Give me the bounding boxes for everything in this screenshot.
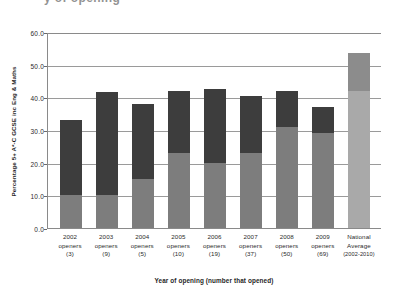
bar-slot: [161, 33, 197, 228]
bar-segment-lower: [168, 153, 190, 228]
bar-slot: [197, 33, 233, 228]
y-axis-tick-label: 0.0: [0, 226, 44, 233]
bar-segment-lower: [60, 195, 82, 228]
y-axis-tick-mark: [44, 33, 47, 34]
x-axis-label: 2002openers(3): [52, 233, 88, 259]
bar-segment-lower: [240, 153, 262, 228]
x-axis-label: NationalAverage(2002-2010): [341, 233, 377, 259]
bar-2008[interactable]: [276, 91, 298, 228]
chart-container: y of opening Percentage 5+ A*-C GCSE inc…: [0, 0, 396, 298]
bar-segment-upper: [60, 120, 82, 195]
y-axis-tick-label: 50.0: [0, 62, 44, 69]
x-axis-label-line: 2009: [305, 233, 341, 242]
bar-national-average[interactable]: [348, 53, 370, 228]
x-axis-label: 2009openers(69): [305, 233, 341, 259]
x-axis-label-line: (10): [160, 250, 196, 259]
bar-segment-upper: [312, 107, 334, 133]
bar-2006[interactable]: [204, 89, 226, 228]
bar-2003[interactable]: [96, 92, 118, 228]
clipped-chart-title: y of opening: [44, 0, 120, 5]
x-axis-label-line: openers: [52, 242, 88, 251]
x-axis-label-line: (2002-2010): [341, 250, 377, 259]
x-axis-label-line: National: [341, 233, 377, 242]
bar-2002[interactable]: [60, 120, 82, 228]
bar-segment-upper: [348, 53, 370, 91]
bar-2004[interactable]: [132, 104, 154, 228]
x-axis-label-line: (69): [305, 250, 341, 259]
x-axis-label: 2004openers(5): [124, 233, 160, 259]
y-axis-tick-mark: [44, 98, 47, 99]
y-axis-tick-label: 30.0: [0, 128, 44, 135]
x-axis-label: 2006openers(19): [196, 233, 232, 259]
x-axis-label: 2005openers(10): [160, 233, 196, 259]
bar-2009[interactable]: [312, 107, 334, 228]
x-axis-label-line: openers: [233, 242, 269, 251]
y-axis-tick-mark: [44, 164, 47, 165]
bar-slot: [53, 33, 89, 228]
bar-segment-lower: [132, 179, 154, 228]
x-axis-label-line: openers: [124, 242, 160, 251]
x-axis-label-line: openers: [196, 242, 232, 251]
bar-segment-upper: [168, 91, 190, 153]
bar-segment-lower: [312, 133, 334, 228]
y-axis-tick-label: 60.0: [0, 30, 44, 37]
x-axis-label-line: openers: [269, 242, 305, 251]
y-axis-tick-mark: [44, 196, 47, 197]
bar-2005[interactable]: [168, 91, 190, 228]
x-axis-label: 2007openers(37): [233, 233, 269, 259]
x-axis-label-line: openers: [305, 242, 341, 251]
bar-segment-lower: [204, 163, 226, 228]
y-axis-tick-label: 20.0: [0, 160, 44, 167]
x-axis-label-line: (19): [196, 250, 232, 259]
plot-area: [47, 33, 381, 229]
bar-slot: [233, 33, 269, 228]
x-axis-label-line: Average: [341, 242, 377, 251]
x-axis-label-line: openers: [88, 242, 124, 251]
x-axis-label-line: (50): [269, 250, 305, 259]
x-axis-title: Year of opening (number that opened): [47, 277, 381, 284]
bar-segment-upper: [204, 89, 226, 163]
bar-segment-lower: [276, 127, 298, 228]
bar-segment-lower: [96, 195, 118, 228]
bar-segment-upper: [96, 92, 118, 195]
bar-2007[interactable]: [240, 96, 262, 228]
x-axis-label-line: (37): [233, 250, 269, 259]
y-axis-tick-mark: [44, 229, 47, 230]
x-axis-label-line: 2005: [160, 233, 196, 242]
y-axis-tick-label: 10.0: [0, 193, 44, 200]
x-axis-label-line: (5): [124, 250, 160, 259]
bar-slot: [341, 33, 377, 228]
x-axis-label-line: 2004: [124, 233, 160, 242]
x-axis-label: 2008openers(50): [269, 233, 305, 259]
bar-slot: [125, 33, 161, 228]
bars-group: [48, 33, 381, 228]
x-axis-label-line: 2008: [269, 233, 305, 242]
x-axis-label-line: 2007: [233, 233, 269, 242]
x-axis-label-line: (3): [52, 250, 88, 259]
bar-slot: [305, 33, 341, 228]
bar-segment-lower: [348, 91, 370, 228]
y-axis-tick-mark: [44, 66, 47, 67]
x-axis-label: 2003openers(9): [88, 233, 124, 259]
x-axis-label-line: 2006: [196, 233, 232, 242]
x-axis-label-line: 2003: [88, 233, 124, 242]
x-axis-label-line: 2002: [52, 233, 88, 242]
x-axis-labels: 2002openers(3)2003openers(9)2004openers(…: [47, 233, 381, 259]
bar-slot: [89, 33, 125, 228]
bar-segment-upper: [240, 96, 262, 153]
bar-segment-upper: [132, 104, 154, 179]
y-axis-tick-mark: [44, 131, 47, 132]
bar-segment-upper: [276, 91, 298, 127]
x-axis-label-line: (9): [88, 250, 124, 259]
bar-slot: [269, 33, 305, 228]
y-axis-tick-label: 40.0: [0, 95, 44, 102]
x-axis-label-line: openers: [160, 242, 196, 251]
